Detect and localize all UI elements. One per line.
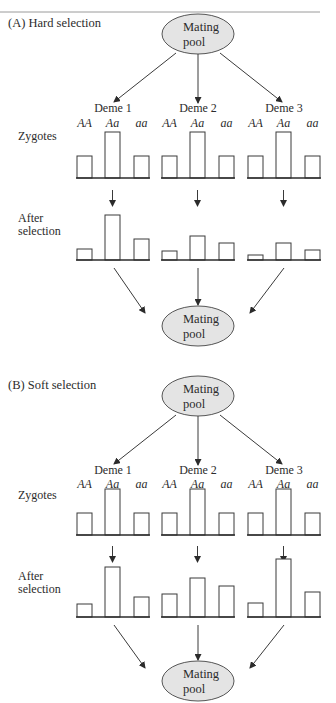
zygote-bars [76,132,150,178]
panel-hard-selection: (A) Hard selectionMatingpoolZygotesAfter… [8,14,321,346]
deme-label: Deme 3 [265,463,303,477]
mating-pool-label: Mating [183,382,220,396]
bar-aa [219,513,234,535]
row-label-selection: selection [18,224,61,238]
deme-label: Deme 3 [265,101,303,115]
row-label-after: After [18,569,43,583]
mating-pool-label: Mating [183,312,220,326]
bar-Aa [276,243,291,260]
arrow-to-pool-from-deme-1 [114,625,145,668]
after-selection-bars [76,215,150,260]
arrow-to-deme-1 [114,415,176,464]
deme-1: Deme 1AAAaaa [76,101,150,260]
bar-Aa [190,132,205,178]
zygote-bars [76,489,150,535]
mating-pool-label: pool [183,682,206,696]
genotype-label: aa [307,116,319,130]
zygote-bars [161,489,235,535]
genotype-label: AA [76,477,92,491]
genotype-label: aa [221,116,233,130]
panel-title: (B) Soft selection [8,378,97,392]
arrow-to-deme-1 [114,53,176,102]
row-label-zygotes: Zygotes [18,129,57,143]
bar-AA [77,513,92,535]
bar-aa [305,592,320,617]
mating-pool-label: Mating [183,20,220,34]
mating-pool-label: Mating [183,667,220,681]
bar-Aa [276,132,291,178]
after-selection-bars [161,578,235,617]
bar-AA [77,156,92,178]
mating-pool-label: pool [183,35,206,49]
row-label-after: After [18,211,43,225]
genotype-label: aa [307,477,319,491]
bar-AA [162,513,177,535]
bar-Aa [105,489,120,535]
arrow-to-deme-3 [220,415,282,464]
bar-aa [134,513,149,535]
bar-Aa [190,489,205,535]
arrow-to-deme-3 [220,53,282,102]
zygote-bars [161,132,235,178]
after-selection-bars [247,243,321,260]
bar-aa [305,250,320,260]
deme-label: Deme 2 [179,463,217,477]
bar-AA [162,156,177,178]
bar-aa [134,239,149,260]
bar-AA [77,249,92,260]
after-selection-bars [76,567,150,617]
bar-aa [305,156,320,178]
mating-pool-label: pool [183,397,206,411]
genotype-label: AA [247,116,263,130]
deme-2: Deme 2AAAaaa [161,463,235,617]
genotype-label: AA [76,116,92,130]
mating-pool-bottom: Matingpool [162,306,234,346]
bar-aa [219,156,234,178]
selection-diagram: (A) Hard selectionMatingpoolZygotesAfter… [0,0,336,703]
deme-3: Deme 3AAAaaa [247,463,321,617]
panel-soft-selection: (B) Soft selectionMatingpoolZygotesAfter… [8,376,321,701]
bar-Aa [276,559,291,617]
bar-Aa [190,236,205,260]
bar-AA [162,251,177,260]
bar-aa [219,243,234,260]
deme-label: Deme 1 [94,101,132,115]
deme-label: Deme 2 [179,101,217,115]
genotype-label: AA [247,477,263,491]
genotype-label: AA [161,477,177,491]
bar-aa [305,513,320,535]
bar-AA [248,156,263,178]
bar-Aa [105,567,120,617]
genotype-label: Aa [105,116,119,130]
bar-aa [219,586,234,617]
zygote-bars [247,132,321,178]
genotype-label: aa [136,477,148,491]
bar-AA [162,594,177,617]
genotype-label: Aa [190,116,204,130]
mating-pool-top: Matingpool [162,14,234,54]
bar-AA [248,603,263,617]
deme-1: Deme 1AAAaaa [76,463,150,617]
bar-Aa [190,578,205,617]
row-label-selection: selection [18,582,61,596]
panel-title: (A) Hard selection [8,16,102,30]
after-selection-bars [161,236,235,260]
mating-pool-bottom: Matingpool [162,661,234,701]
genotype-label: Aa [276,116,290,130]
bar-Aa [276,489,291,535]
mating-pool-top: Matingpool [162,376,234,416]
mating-pool-label: pool [183,327,206,341]
bar-Aa [105,132,120,178]
deme-3: Deme 3AAAaaa [247,101,321,260]
genotype-label: aa [136,116,148,130]
bar-AA [248,513,263,535]
row-label-zygotes: Zygotes [18,488,57,502]
bar-AA [77,604,92,617]
arrow-to-pool-from-deme-3 [250,625,284,668]
arrow-to-pool-from-deme-1 [114,268,145,313]
bar-aa [134,156,149,178]
zygote-bars [247,489,321,535]
genotype-label: AA [161,116,177,130]
after-selection-bars [247,559,321,617]
deme-2: Deme 2AAAaaa [161,101,235,260]
